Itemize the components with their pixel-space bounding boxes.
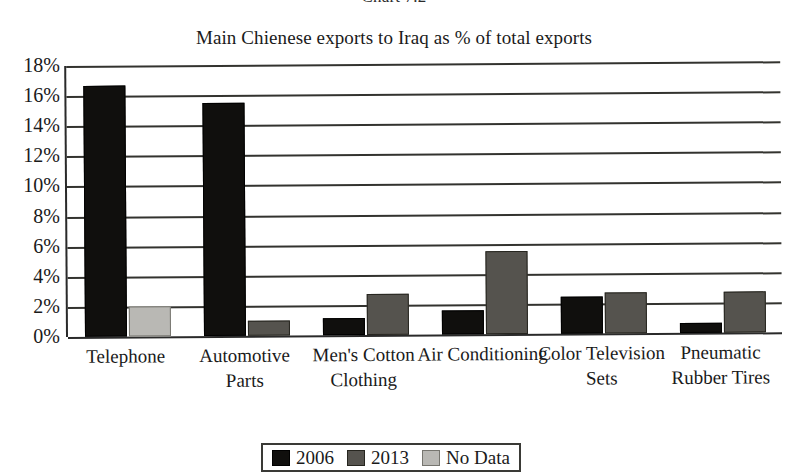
gridline: [67, 152, 781, 159]
x-axis-category-label: Automotive Parts: [179, 342, 310, 393]
gridline: [66, 61, 780, 68]
x-axis-category-label: Telephone: [60, 343, 191, 369]
gridline: [68, 272, 782, 279]
bar-group: [559, 62, 647, 334]
bar[interactable]: [604, 293, 646, 334]
gridline: [66, 91, 780, 98]
legend-item[interactable]: No Data: [422, 448, 510, 467]
bar[interactable]: [322, 318, 364, 335]
bar[interactable]: [202, 102, 246, 336]
gridline: [67, 182, 781, 189]
x-axis-category-label: Men's Cotton Clothing: [298, 342, 429, 393]
bar[interactable]: [723, 292, 765, 333]
chart-canvas: TelephoneAutomotive PartsMen's Cotton Cl…: [0, 0, 788, 476]
legend-item[interactable]: 2013: [347, 448, 409, 467]
legend-swatch-icon: [347, 450, 365, 466]
x-axis: TelephoneAutomotive PartsMen's Cotton Cl…: [66, 339, 781, 430]
legend-swatch-icon: [422, 450, 440, 466]
bar[interactable]: [441, 310, 483, 334]
bar-group: [678, 61, 766, 333]
gridline: [67, 121, 781, 128]
gridline: [68, 332, 782, 339]
bar-group: [321, 64, 409, 336]
legend-item[interactable]: 2006: [272, 448, 334, 467]
legend-label: 2013: [371, 448, 409, 467]
bar-group: [202, 65, 290, 337]
bar[interactable]: [128, 306, 170, 336]
x-axis-category-label: Air Conditioning: [417, 341, 548, 367]
bar-group: [440, 63, 528, 335]
legend-label: 2006: [296, 448, 334, 467]
legend-swatch-icon: [272, 450, 290, 466]
gridline: [67, 212, 781, 219]
x-axis-category-label: Color Television Sets: [536, 340, 667, 391]
chart-legend: 20062013No Data: [261, 443, 521, 472]
x-axis-category-label: Pneumatic Rubber Tires: [655, 339, 786, 390]
legend-label: No Data: [446, 448, 510, 467]
bar-group: [83, 65, 171, 337]
gridline: [67, 242, 781, 249]
plot-area: [64, 61, 780, 337]
bar[interactable]: [485, 251, 528, 334]
bar[interactable]: [83, 85, 127, 337]
bar[interactable]: [247, 320, 289, 335]
bar[interactable]: [366, 294, 408, 335]
bar[interactable]: [560, 297, 602, 334]
gridline: [68, 302, 782, 309]
bar[interactable]: [679, 323, 721, 333]
